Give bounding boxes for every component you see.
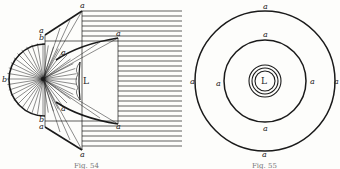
label-a-inner-upper: a [61,48,66,57]
label-b-left: b [2,75,7,84]
lens [79,62,80,100]
label-a-inner-lower: a [61,104,66,113]
label-a-lower: a [116,122,121,131]
label-lens: L [83,76,89,86]
diagram-canvas: a a a b b b a a a a a L Fig. 54 a a a a … [0,0,340,169]
label-a-upper: a [116,29,121,38]
radiating-rays [7,11,118,150]
label-b-upper: b [39,33,44,42]
label-outer-left: a [190,77,195,86]
outer-mirror-upper [45,11,82,35]
figure-54 [7,11,182,150]
label-a-top: a [80,1,85,10]
figure-55-labels: a a a a a a a a L Fig. 55 [190,2,339,169]
label-mid-right: a [310,77,315,86]
label-outer-right: a [334,77,339,86]
label-a-left-lower: a [39,122,44,131]
label-center-L: L [261,76,267,86]
caption-fig-55: Fig. 55 [252,162,277,169]
label-outer-top: a [263,2,268,11]
label-mid-bottom: a [263,124,268,133]
label-mid-top: a [263,30,268,39]
outer-mirror-lower [45,127,82,150]
label-outer-bottom: a [262,150,267,159]
parallel-rays [45,11,182,146]
caption-fig-54: Fig. 54 [74,162,99,169]
label-mid-left: a [216,79,221,88]
label-a-bottom: a [80,150,85,159]
light-source [41,77,45,81]
